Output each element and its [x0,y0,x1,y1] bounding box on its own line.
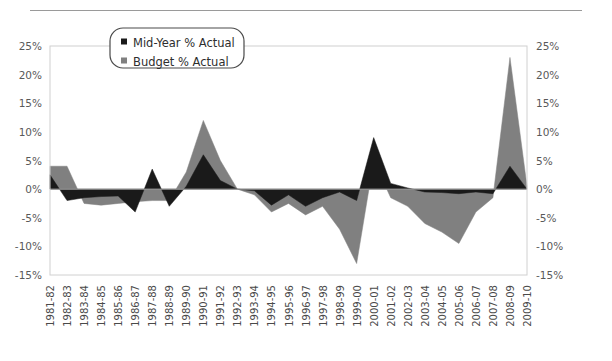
x-tick-label-1981-82: 1981-82 [45,285,56,327]
y-tick-right-8: -15% [536,269,563,281]
x-tick-label-1982-83: 1982-83 [62,285,73,327]
y-tick-left-1: 20% [19,69,42,81]
x-tick-label-1983-84: 1983-84 [79,285,90,327]
y-tick-left-4: 5% [25,155,42,167]
x-tick-label-1994-95: 1994-95 [266,285,277,327]
x-tick-label-1997-98: 1997-98 [318,285,329,327]
y-tick-right-3: 10% [536,126,559,138]
y-tick-left-3: 10% [19,126,42,138]
y-tick-left-5: 0% [25,183,42,195]
x-tick-label-2001-02: 2001-02 [386,285,397,327]
x-tick-label-2002-03: 2002-03 [403,285,414,327]
x-tick-label-1992-93: 1992-93 [232,285,243,327]
y-tick-right-5: 0% [536,183,553,195]
y-tick-right-6: -5% [536,212,556,224]
x-tick-label-2000-01: 2000-01 [369,285,380,327]
plot-area: 25%20%15%10%5%0%-5%-10%-15% 25%20%15%10%… [15,28,563,327]
legend-marker-0 [121,39,127,45]
x-tick-label-2007-08: 2007-08 [488,285,499,327]
x-tick-label-1984-85: 1984-85 [96,285,107,327]
y-tick-left-0: 25% [19,40,42,52]
x-tick-label-1996-97: 1996-97 [301,285,312,327]
x-axis-labels: 1981-821982-831983-841984-851985-861986-… [45,285,533,327]
y-tick-right-0: 25% [536,40,559,52]
x-tick-label-1993-94: 1993-94 [249,285,260,327]
chart-container: 25%20%15%10%5%0%-5%-10%-15% 25%20%15%10%… [0,0,612,361]
x-tick-label-2008-09: 2008-09 [505,285,516,327]
y-tick-right-7: -10% [536,240,563,252]
y-tick-right-4: 5% [536,155,553,167]
area-chart: 25%20%15%10%5%0%-5%-10%-15% 25%20%15%10%… [0,0,612,361]
x-tick-label-1999-00: 1999-00 [352,285,363,327]
x-tick-label-1988-89: 1988-89 [164,285,175,327]
chart-legend[interactable]: Mid-Year % ActualBudget % Actual [110,28,244,69]
y-tick-left-2: 15% [19,97,42,109]
y-axis-left: 25%20%15%10%5%0%-5%-10%-15% [15,40,42,281]
y-tick-right-1: 20% [536,69,559,81]
legend-label-1[interactable]: Budget % Actual [133,55,229,69]
x-tick-label-1995-96: 1995-96 [284,285,295,327]
x-tick-label-1986-87: 1986-87 [130,285,141,327]
y-tick-left-8: -15% [15,269,42,281]
legend-marker-1 [121,58,127,64]
y-axis-right: 25%20%15%10%5%0%-5%-10%-15% [536,40,563,281]
x-tick-label-1991-92: 1991-92 [215,285,226,327]
x-tick-label-1990-91: 1990-91 [198,285,209,327]
x-tick-label-1987-88: 1987-88 [147,285,158,327]
x-tick-label-2003-04: 2003-04 [420,285,431,327]
x-tick-label-1985-86: 1985-86 [113,285,124,327]
y-tick-left-7: -10% [15,240,42,252]
x-tick-label-2006-07: 2006-07 [471,285,482,327]
x-tick-label-1998-99: 1998-99 [335,285,346,327]
x-tick-label-1989-90: 1989-90 [181,285,192,327]
x-tick-label-2009-10: 2009-10 [522,285,533,327]
legend-label-0[interactable]: Mid-Year % Actual [133,36,235,50]
x-tick-label-2004-05: 2004-05 [437,285,448,327]
y-tick-right-2: 15% [536,97,559,109]
y-tick-left-6: -5% [22,212,42,224]
x-tick-label-2005-06: 2005-06 [454,285,465,327]
